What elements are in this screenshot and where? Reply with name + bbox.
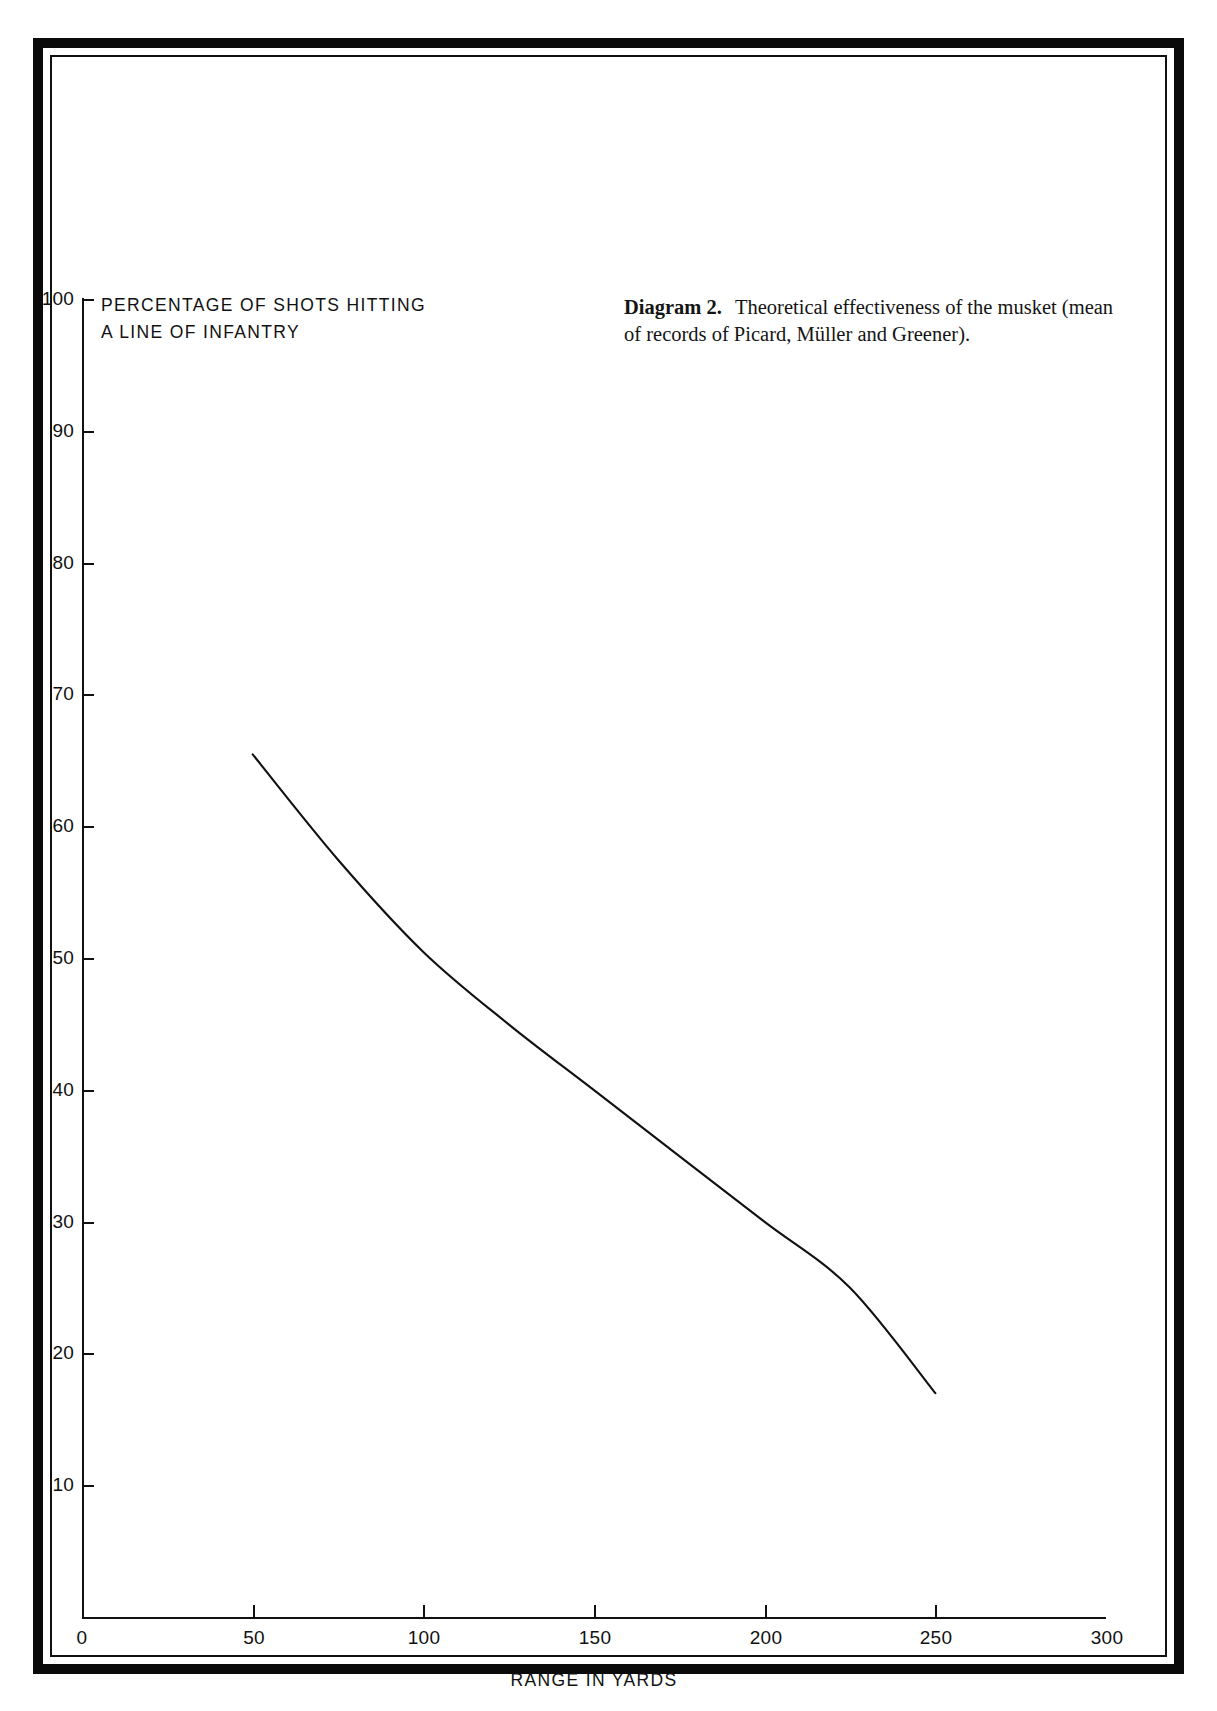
y-tick-10 bbox=[82, 1485, 94, 1487]
x-tick-label-150: 150 bbox=[565, 1627, 625, 1649]
y-tick-100 bbox=[82, 299, 94, 301]
y-tick-label-50: 50 bbox=[30, 947, 74, 969]
x-axis-line bbox=[82, 1617, 1106, 1619]
y-tick-label-20: 20 bbox=[30, 1342, 74, 1364]
y-tick-label-80: 80 bbox=[30, 552, 74, 574]
data-curve bbox=[0, 0, 1217, 1711]
y-tick-label-100: 100 bbox=[30, 288, 74, 310]
y-axis-title: PERCENTAGE OF SHOTS HITTING A LINE OF IN… bbox=[101, 292, 426, 346]
y-tick-30 bbox=[82, 1222, 94, 1224]
y-tick-80 bbox=[82, 563, 94, 565]
caption-label: Diagram 2. bbox=[624, 296, 722, 318]
y-tick-40 bbox=[82, 1090, 94, 1092]
x-tick-label-0: 0 bbox=[52, 1627, 112, 1649]
x-tick-label-200: 200 bbox=[736, 1627, 796, 1649]
x-tick-label-50: 50 bbox=[224, 1627, 284, 1649]
y-tick-label-60: 60 bbox=[30, 815, 74, 837]
x-tick-250 bbox=[935, 1605, 937, 1617]
x-tick-label-100: 100 bbox=[394, 1627, 454, 1649]
x-tick-100 bbox=[423, 1605, 425, 1617]
x-tick-150 bbox=[594, 1605, 596, 1617]
y-axis-title-line1: PERCENTAGE OF SHOTS HITTING bbox=[101, 292, 426, 319]
x-tick-200 bbox=[765, 1605, 767, 1617]
y-tick-70 bbox=[82, 694, 94, 696]
y-tick-50 bbox=[82, 958, 94, 960]
y-tick-label-40: 40 bbox=[30, 1079, 74, 1101]
y-tick-label-10: 10 bbox=[30, 1474, 74, 1496]
x-tick-label-250: 250 bbox=[906, 1627, 966, 1649]
x-tick-label-300: 300 bbox=[1077, 1627, 1137, 1649]
y-axis-title-line2: A LINE OF INFANTRY bbox=[101, 319, 426, 346]
x-axis-title: RANGE IN YARDS bbox=[82, 1670, 1106, 1691]
x-tick-50 bbox=[253, 1605, 255, 1617]
chart-plot-area: 100 90 80 70 60 50 40 30 20 10 0 50 100 … bbox=[0, 0, 1217, 1711]
y-tick-label-70: 70 bbox=[30, 683, 74, 705]
y-tick-20 bbox=[82, 1353, 94, 1355]
y-tick-60 bbox=[82, 826, 94, 828]
y-tick-label-90: 90 bbox=[30, 420, 74, 442]
y-tick-90 bbox=[82, 431, 94, 433]
y-tick-label-30: 30 bbox=[30, 1211, 74, 1233]
figure-caption: Diagram 2.Theoretical effectiveness of t… bbox=[624, 294, 1132, 347]
